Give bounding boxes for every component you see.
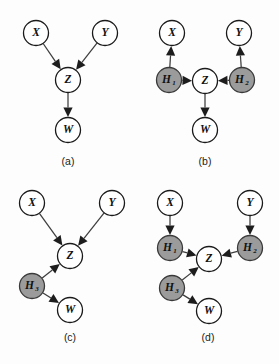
panel-caption-b: (b)	[199, 155, 212, 167]
edge-Y-to-Z	[84, 213, 104, 238]
node-label-X: X	[167, 26, 176, 38]
arrowhead-H1-to-X	[166, 46, 175, 56]
node-label-Y: Y	[246, 196, 254, 208]
node-Y: Y	[100, 191, 125, 216]
node-label-X: X	[165, 196, 174, 208]
edge-H3-to-Z	[182, 273, 191, 280]
node-label-Z: Z	[200, 74, 208, 86]
arrowhead-Z-to-W	[200, 108, 209, 118]
node-label-Z: Z	[204, 252, 212, 264]
arrowhead-H2-to-Z	[218, 76, 228, 85]
arrowhead-H3-to-W	[187, 295, 197, 304]
arrowhead-Y-to-H2	[245, 226, 254, 236]
node-W: W	[56, 118, 81, 143]
node-subscript-H3: 3	[34, 285, 39, 293]
node-subscript-H2: 2	[252, 247, 257, 255]
node-Z: Z	[56, 68, 81, 93]
node-W: W	[197, 299, 222, 324]
node-X: X	[20, 191, 45, 216]
edge-H3-to-W	[183, 295, 190, 299]
edge-H1-to-X	[170, 55, 171, 67]
edge-X-to-Z	[43, 44, 55, 62]
arrowhead-X-to-H1	[165, 226, 174, 236]
node-H3: H3	[20, 274, 45, 299]
node-label-W: W	[65, 303, 76, 315]
node-H1: H1	[157, 68, 182, 93]
arrowhead-H2-to-Z	[222, 249, 232, 258]
panel-a: XYZW(a)	[24, 21, 118, 167]
arrowhead-H1-to-Z	[182, 76, 192, 85]
arrowhead-H3-to-Z	[188, 267, 198, 276]
node-label-H1: H	[161, 73, 172, 85]
node-label-W: W	[204, 304, 215, 316]
node-label-Z: Z	[63, 73, 71, 85]
node-Y: Y	[227, 21, 252, 46]
node-X: X	[158, 191, 183, 216]
node-Y: Y	[93, 21, 118, 46]
node-label-X: X	[27, 196, 36, 208]
node-label-H3: H	[164, 281, 175, 293]
panel-c: XYZH3W(c)	[20, 191, 125, 343]
arrowhead-Y-to-Z	[76, 59, 85, 69]
node-label-Y: Y	[108, 196, 116, 208]
panel-caption-c: (c)	[64, 331, 76, 343]
arrowhead-X-to-Z	[52, 59, 61, 69]
arrowhead-X-to-Z	[53, 235, 62, 245]
node-Y: Y	[238, 191, 263, 216]
node-label-H1: H	[162, 241, 173, 253]
node-label-W: W	[63, 123, 74, 135]
figure-root: XYZW(a)XYH1H2ZW(b)XYZH3W(c)XYH1H2ZH3W(d)	[0, 0, 279, 364]
arrowhead-Y-to-Z	[78, 236, 88, 246]
node-H3: H3	[160, 276, 185, 301]
node-H1: H1	[158, 236, 183, 261]
node-W: W	[193, 118, 218, 143]
edge-H2-to-Y	[240, 55, 241, 67]
causal-diagram-figure: XYZW(a)XYH1H2ZW(b)XYZH3W(c)XYH1H2ZH3W(d)	[0, 0, 279, 364]
edge-H3-to-Z	[42, 270, 52, 278]
node-label-H3: H	[24, 279, 35, 291]
node-label-H2: H	[242, 241, 253, 253]
edge-X-to-Z	[40, 214, 57, 238]
node-subscript-H1: 1	[173, 247, 177, 255]
node-Z: Z	[58, 244, 83, 269]
node-label-Y: Y	[101, 26, 109, 38]
arrowhead-H3-to-W	[49, 294, 59, 303]
node-H2: H2	[238, 236, 263, 261]
arrowhead-H1-to-Z	[186, 248, 196, 257]
node-X: X	[24, 21, 49, 46]
edge-Y-to-Z	[82, 43, 97, 62]
node-Z: Z	[197, 247, 222, 272]
node-label-H2: H	[234, 73, 245, 85]
node-W: W	[58, 298, 83, 323]
node-subscript-H3: 3	[174, 287, 179, 295]
edge-H1-to-Z	[183, 252, 188, 253]
panel-caption-d: (d)	[202, 331, 215, 343]
arrowhead-H3-to-Z	[49, 264, 59, 273]
node-subscript-H1: 1	[172, 79, 176, 87]
edge-H2-to-Z	[231, 251, 238, 253]
node-H2: H2	[230, 68, 255, 93]
node-label-W: W	[200, 123, 211, 135]
node-label-Z: Z	[65, 249, 73, 261]
node-X: X	[160, 21, 185, 46]
panel-b: XYH1H2ZW(b)	[157, 21, 255, 167]
node-Z: Z	[193, 69, 218, 94]
panel-d: XYH1H2ZH3W(d)	[158, 191, 263, 343]
node-label-X: X	[31, 26, 40, 38]
arrowhead-Z-to-W	[63, 108, 72, 118]
node-subscript-H2: 2	[244, 79, 249, 87]
arrowhead-H2-to-Y	[236, 46, 245, 56]
node-label-Y: Y	[235, 26, 243, 38]
edge-H3-to-W	[43, 293, 51, 298]
panel-caption-a: (a)	[62, 155, 75, 167]
